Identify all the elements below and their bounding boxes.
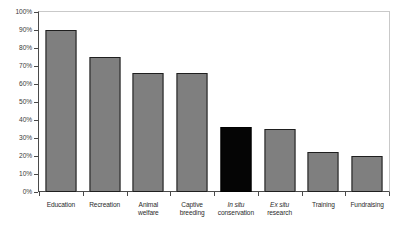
y-axis-tick-label: 30% [19, 133, 32, 143]
y-axis-tick-label: 80% [19, 43, 32, 53]
x-axis-category-label: Captivebreeding [170, 201, 214, 218]
bar-slot [83, 12, 127, 192]
x-axis: EducationRecreationAnimalwelfareCaptiveb… [38, 192, 390, 232]
x-axis-category-label-line1: Training [302, 201, 346, 209]
y-axis-tick-label: 70% [19, 61, 32, 71]
x-axis-tick-mark [302, 192, 303, 196]
y-axis-tick-mark [34, 120, 38, 121]
y-axis-tick-label: 0% [23, 187, 32, 197]
x-axis-category-label: In situconservation [214, 201, 258, 218]
y-axis-tick-mark [34, 84, 38, 85]
y-axis-tick-mark [34, 66, 38, 67]
y-axis-tick: 10% [0, 169, 38, 179]
bars-layer [39, 12, 389, 192]
bar [308, 152, 339, 192]
x-axis-category-label-line1: Education [39, 201, 83, 209]
x-axis-category-label-line2: research [258, 209, 302, 217]
y-axis-tick-mark [34, 12, 38, 13]
y-axis-tick-mark [34, 30, 38, 31]
y-axis-tick: 80% [0, 43, 38, 53]
bar-slot [214, 12, 258, 192]
x-axis-category-label-line1: Ex situ [258, 201, 302, 209]
x-axis-category-label-line1: Recreation [83, 201, 127, 209]
x-axis-tick-mark [345, 192, 346, 196]
x-axis-category-label: Training [302, 201, 346, 209]
x-axis-tick-mark [39, 192, 40, 196]
y-axis-tick: 50% [0, 97, 38, 107]
y-axis-tick: 90% [0, 25, 38, 35]
y-axis-tick-label: 10% [19, 169, 32, 179]
x-axis-category-label: Education [39, 201, 83, 209]
x-axis-category-label: Ex situresearch [258, 201, 302, 218]
y-axis-tick: 20% [0, 151, 38, 161]
x-axis-tick-mark [389, 192, 390, 196]
x-axis-tick-mark [83, 192, 84, 196]
y-axis-tick-label: 20% [19, 151, 32, 161]
bar-slot [127, 12, 171, 192]
bar [264, 129, 295, 192]
x-axis-tick-mark [170, 192, 171, 196]
y-axis-tick: 40% [0, 115, 38, 125]
x-axis-tick-mark [214, 192, 215, 196]
x-axis-category-label-line1: Fundraising [345, 201, 389, 209]
x-axis-category-label-line2: welfare [127, 209, 171, 217]
x-axis-category-label-line1: Animal [127, 201, 171, 209]
x-axis-category-label-line1: Captive [170, 201, 214, 209]
x-axis-category-label: Animalwelfare [127, 201, 171, 218]
bar [45, 30, 76, 192]
bar-slot [39, 12, 83, 192]
bar [177, 73, 208, 192]
x-axis-category-label: Fundraising [345, 201, 389, 209]
y-axis-tick-label: 100% [16, 7, 32, 17]
y-axis-tick-label: 50% [19, 97, 32, 107]
y-axis-tick-label: 40% [19, 115, 32, 125]
bar-chart: 0%10%20%30%40%50%60%70%80%90%100% Educat… [0, 0, 410, 232]
bar [220, 127, 251, 192]
y-axis-tick-mark [34, 174, 38, 175]
bar [133, 73, 164, 192]
bar-slot [170, 12, 214, 192]
y-axis-tick: 70% [0, 61, 38, 71]
x-axis-category-label: Recreation [83, 201, 127, 209]
y-axis-tick: 100% [0, 7, 38, 17]
y-axis-tick-mark [34, 138, 38, 139]
bar [89, 57, 120, 192]
x-axis-category-label-line2: conservation [214, 209, 258, 217]
x-axis-category-label-line2: breeding [170, 209, 214, 217]
x-axis-category-label-line1: In situ [214, 201, 258, 209]
y-axis-tick-mark [34, 102, 38, 103]
y-axis-tick: 0% [0, 187, 38, 197]
y-axis-tick-mark [34, 48, 38, 49]
y-axis-tick: 60% [0, 79, 38, 89]
x-axis-tick-mark [258, 192, 259, 196]
y-axis: 0%10%20%30%40%50%60%70%80%90%100% [0, 0, 38, 192]
bar-slot [258, 12, 302, 192]
bar [352, 156, 383, 192]
y-axis-tick-label: 90% [19, 25, 32, 35]
bar-slot [302, 12, 346, 192]
y-axis-tick-label: 60% [19, 79, 32, 89]
x-axis-tick-mark [127, 192, 128, 196]
bar-slot [345, 12, 389, 192]
y-axis-tick: 30% [0, 133, 38, 143]
y-axis-tick-mark [34, 156, 38, 157]
